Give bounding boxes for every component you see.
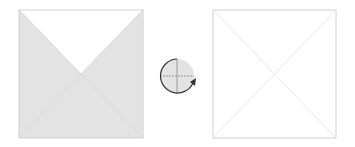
right-square — [213, 10, 336, 138]
left-square — [19, 10, 143, 138]
rotate-clockwise-icon — [160, 59, 196, 93]
diagram-canvas — [0, 0, 355, 147]
